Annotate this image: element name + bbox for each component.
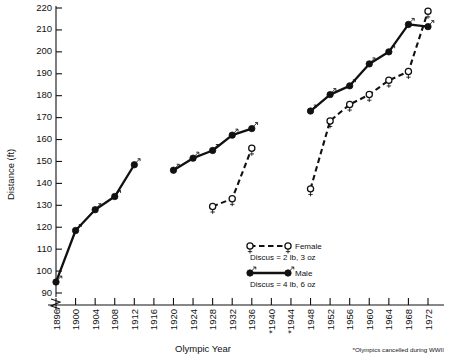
discus-distance-chart: 9010011012013014015016017018019020021022… <box>0 0 450 357</box>
data-point-female-1956 <box>347 101 353 107</box>
female-symbol-icon <box>210 209 214 214</box>
data-point-male-1904 <box>92 206 98 212</box>
female-symbol-icon <box>230 202 234 207</box>
data-point-female-1968 <box>405 68 411 74</box>
y-tick-label: 210 <box>36 23 52 34</box>
data-point-female-1972 <box>425 8 431 14</box>
x-tick-label: 1932 <box>227 309 238 330</box>
series-line-male <box>56 165 134 282</box>
x-tick-label: 1972 <box>423 309 434 330</box>
legend-marker-male <box>285 270 291 276</box>
data-point-male-1924 <box>190 155 196 161</box>
x-tick-label: 1896 <box>51 309 62 330</box>
data-point-female-1960 <box>366 91 372 97</box>
x-tick-label: 1928 <box>207 309 218 330</box>
x-tick-label: 1968 <box>403 309 414 330</box>
x-tick-label: *1940 <box>266 309 277 334</box>
legend-marker-female <box>285 243 291 249</box>
y-tick-label: 190 <box>36 67 52 78</box>
x-tick-label: 1908 <box>109 309 120 330</box>
data-point-female-1952 <box>327 118 333 124</box>
y-axis-title: Distance (ft) <box>5 149 16 200</box>
male-symbol-icon <box>254 123 258 127</box>
data-point-male-1968 <box>405 21 411 27</box>
y-tick-label: 130 <box>36 199 52 210</box>
data-point-female-1936 <box>249 145 255 151</box>
x-tick-label: 1952 <box>325 309 336 330</box>
male-symbol-icon <box>136 159 140 163</box>
male-symbol-icon <box>290 267 294 271</box>
female-symbol-icon <box>387 83 391 88</box>
y-tick-label: 200 <box>36 45 52 56</box>
female-symbol-icon <box>347 107 351 112</box>
x-tick-label: 1912 <box>129 309 140 330</box>
data-point-female-1948 <box>307 186 313 192</box>
data-point-male-1908 <box>112 193 118 199</box>
y-tick-label: 160 <box>36 133 52 144</box>
chart-canvas: 9010011012013014015016017018019020021022… <box>0 0 450 357</box>
y-tick-label: 150 <box>36 155 52 166</box>
y-axis: 9010011012013014015016017018019020021022… <box>36 2 62 298</box>
footnote: *Olympics cancelled during WWII <box>353 346 445 353</box>
legend-sublabel-female: Discus = 2 lb, 3 oz <box>250 253 316 262</box>
data-point-male-1928 <box>209 147 215 153</box>
male-symbol-icon <box>430 21 434 25</box>
data-point-male-1912 <box>131 162 137 168</box>
female-symbol-icon <box>406 75 410 80</box>
x-axis-title: Olympic Year <box>175 343 231 354</box>
data-point-male-1948 <box>307 108 313 114</box>
x-tick-label: 1948 <box>305 309 316 330</box>
data-point-male-1900 <box>72 227 78 233</box>
data-point-male-1956 <box>346 83 352 89</box>
x-axis: 1896190019041908191219161920192419281932… <box>48 298 444 334</box>
x-tick-label: 1904 <box>90 309 101 330</box>
data-point-male-1932 <box>229 132 235 138</box>
legend-label-female: Female <box>295 242 322 251</box>
x-tick-label: *1944 <box>285 309 296 334</box>
x-tick-label: 1936 <box>246 309 257 330</box>
x-tick-label: 1900 <box>70 309 81 330</box>
legend-sublabel-male: Discus = 4 lb, 6 oz <box>250 280 316 289</box>
data-point-male-1920 <box>170 167 176 173</box>
data-point-male-1952 <box>327 91 333 97</box>
data-point-male-1936 <box>249 125 255 131</box>
female-symbol-icon <box>367 98 371 103</box>
data-point-female-1928 <box>210 203 216 209</box>
data-point-female-1964 <box>386 77 392 83</box>
x-tick-label: 1924 <box>188 309 199 330</box>
data-point-male-1972 <box>425 23 431 29</box>
legend: FemaleDiscus = 2 lb, 3 ozMaleDiscus = 4 … <box>247 242 322 289</box>
y-tick-label: 110 <box>37 243 52 254</box>
x-tick-label: 1960 <box>364 309 375 330</box>
y-tick-label: 140 <box>36 177 52 188</box>
legend-label-male: Male <box>295 269 313 278</box>
y-tick-label: 100 <box>36 265 52 276</box>
male-symbol-icon <box>410 18 414 22</box>
x-tick-label: 1916 <box>148 309 159 330</box>
legend-marker-male <box>247 270 253 276</box>
series-male <box>53 18 434 285</box>
y-tick-label: 120 <box>36 221 52 232</box>
male-symbol-icon <box>252 267 256 271</box>
x-tick-label: 1964 <box>383 309 394 330</box>
data-point-male-1896 <box>53 279 59 285</box>
data-point-male-1960 <box>366 61 372 67</box>
x-tick-label: 1956 <box>344 309 355 330</box>
legend-marker-female <box>247 243 253 249</box>
y-tick-label: 170 <box>36 111 52 122</box>
female-symbol-icon <box>308 192 312 197</box>
legend-item-male[interactable]: MaleDiscus = 4 lb, 6 oz <box>247 267 316 289</box>
male-symbol-icon <box>234 129 238 133</box>
y-tick-label: 180 <box>36 89 52 100</box>
data-point-female-1932 <box>229 196 235 202</box>
data-point-male-1964 <box>386 49 392 55</box>
x-tick-label: 1920 <box>168 309 179 330</box>
y-tick-label: 90 <box>41 287 52 298</box>
y-tick-label: 220 <box>36 2 52 13</box>
legend-item-female[interactable]: FemaleDiscus = 2 lb, 3 oz <box>247 242 322 262</box>
